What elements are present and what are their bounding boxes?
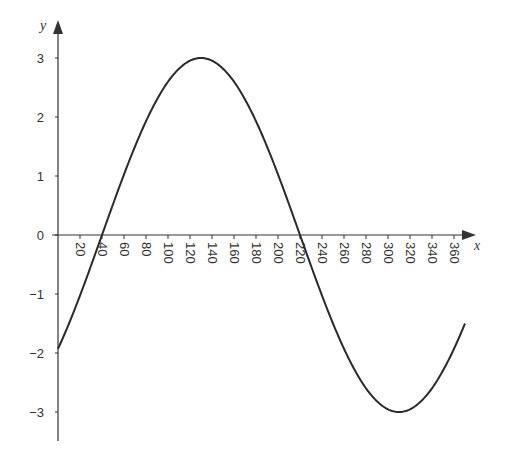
x-tick-label: 60 xyxy=(117,242,132,256)
sine-chart: y x 204060801001201401601802002202402602… xyxy=(0,0,508,468)
y-tick-label: −1 xyxy=(29,287,44,302)
y-tick-label: −2 xyxy=(29,346,44,361)
y-axis-label: y xyxy=(38,18,47,33)
x-tick-label: 300 xyxy=(381,242,396,264)
x-tick-label: 320 xyxy=(403,242,418,264)
x-tick-label: 120 xyxy=(183,242,198,264)
x-tick-label: 140 xyxy=(205,242,220,264)
x-tick-label: 280 xyxy=(359,242,374,264)
x-tick-label: 80 xyxy=(139,242,154,256)
x-tick-label: 100 xyxy=(161,242,176,264)
x-tick-label: 360 xyxy=(447,242,462,264)
y-tick-label: 0 xyxy=(37,228,44,243)
x-tick-label: 340 xyxy=(425,242,440,264)
y-tick-label: 2 xyxy=(37,110,44,125)
x-tick-label: 240 xyxy=(315,242,330,264)
x-tick-label: 20 xyxy=(73,242,88,256)
x-axis-label: x xyxy=(473,238,481,253)
x-tick-label: 160 xyxy=(227,242,242,264)
x-ticks: 2040608010012014016018020022024026028030… xyxy=(73,235,462,264)
x-tick-label: 180 xyxy=(249,242,264,264)
y-tick-label: 3 xyxy=(37,51,44,66)
y-tick-label: 1 xyxy=(37,169,44,184)
y-axis-arrow-icon xyxy=(53,20,63,34)
x-tick-label: 260 xyxy=(337,242,352,264)
y-tick-label: −3 xyxy=(29,405,44,420)
x-tick-label: 200 xyxy=(271,242,286,264)
